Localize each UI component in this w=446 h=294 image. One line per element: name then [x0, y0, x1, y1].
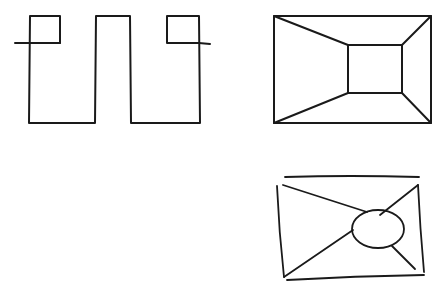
figure-meander-with-squares — [15, 16, 210, 123]
line-drawings — [0, 0, 446, 294]
diagonal-bottom-left — [284, 230, 353, 277]
right-edge — [418, 185, 424, 272]
top-edge — [285, 176, 419, 177]
outer-rectangle — [274, 16, 431, 123]
meander-outline — [29, 16, 200, 123]
center-ellipse — [352, 210, 404, 248]
inner-rectangle — [348, 45, 402, 93]
left-edge — [277, 186, 284, 277]
figure-hand-drawn-envelope — [277, 176, 424, 280]
diagonal-top-left — [283, 185, 367, 212]
diagonal-bottom-left — [274, 93, 348, 123]
figure-perspective-room — [274, 16, 431, 123]
right-stub-line — [199, 43, 210, 44]
diagonal-top-right — [402, 16, 431, 45]
diagonal-bottom-right — [392, 246, 415, 269]
diagonal-bottom-right — [402, 93, 431, 123]
drawing-canvas — [0, 0, 446, 294]
diagonal-top-left — [274, 16, 348, 45]
bottom-edge — [287, 275, 424, 280]
